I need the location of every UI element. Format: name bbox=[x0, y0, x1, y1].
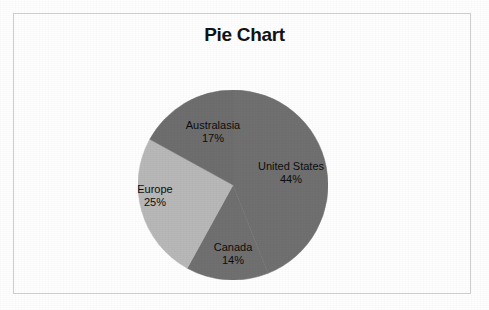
pie-label-canada-name: Canada bbox=[196, 241, 270, 254]
pie-label-australasia-name: Australasia bbox=[167, 119, 259, 132]
pie-label-europe-value: 25% bbox=[120, 196, 190, 209]
pie-label-united-states-value: 44% bbox=[243, 173, 339, 186]
pie-label-canada-value: 14% bbox=[196, 254, 270, 267]
pie-label-united-states-name: United States bbox=[243, 160, 339, 173]
pie-label-australasia: Australasia 17% bbox=[167, 119, 259, 145]
pie-label-united-states: United States 44% bbox=[243, 160, 339, 186]
chart-title: Pie Chart bbox=[0, 24, 489, 46]
pie-chart-figure: Pie Chart United States 44% Canada 14% E… bbox=[0, 0, 489, 310]
pie-label-europe-name: Europe bbox=[120, 183, 190, 196]
pie-label-canada: Canada 14% bbox=[196, 241, 270, 267]
pie-label-europe: Europe 25% bbox=[120, 183, 190, 209]
pie-label-australasia-value: 17% bbox=[167, 132, 259, 145]
